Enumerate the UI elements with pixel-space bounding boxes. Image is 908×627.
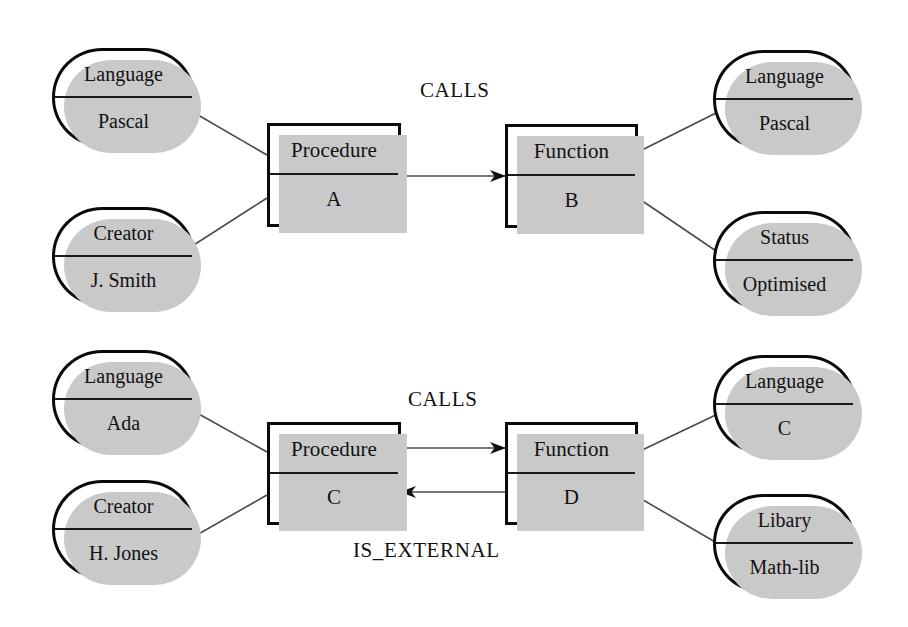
entity-function-b[interactable]: Function B [505, 124, 638, 228]
attribute-key: Language [55, 51, 192, 98]
entity-name: C [270, 472, 398, 523]
attribute-value: Ada [55, 398, 192, 447]
entity-type: Function [508, 127, 635, 176]
connector-function-b-to-lang-pascal [638, 110, 722, 152]
attribute-value: J. Smith [55, 255, 192, 304]
attribute-creator-h-jones[interactable]: Creator H. Jones [52, 480, 195, 579]
entity-procedure-c[interactable]: Procedure C [267, 422, 401, 525]
attribute-creator-j-smith[interactable]: Creator J. Smith [52, 207, 195, 306]
entity-function-d[interactable]: Function D [505, 422, 638, 525]
diagram-canvas: Language Pascal Creator J. Smith Languag… [0, 0, 908, 627]
connector-creator-jsmith-to-procedure-a [186, 198, 267, 250]
attribute-key: Creator [55, 210, 192, 257]
attribute-value: Math-lib [716, 542, 853, 591]
attribute-key: Status [716, 214, 853, 261]
attribute-language-pascal-left[interactable]: Language Pascal [52, 48, 195, 147]
entity-name: A [270, 173, 398, 224]
relationship-label-is-external: IS_EXTERNAL [353, 538, 500, 563]
attribute-key: Language [716, 358, 853, 405]
attribute-language-ada[interactable]: Language Ada [52, 350, 195, 449]
entity-type: Procedure [270, 425, 398, 474]
attribute-key: Language [716, 53, 853, 100]
attribute-status-optimised[interactable]: Status Optimised [713, 211, 856, 310]
connector-function-d-to-libary-mathlib [638, 497, 722, 546]
connector-function-d-to-lang-c [638, 412, 722, 452]
attribute-value: H. Jones [55, 528, 192, 577]
attribute-language-pascal-right[interactable]: Language Pascal [713, 50, 856, 149]
attribute-key: Language [55, 353, 192, 400]
attribute-key: Creator [55, 483, 192, 530]
entity-procedure-a[interactable]: Procedure A [267, 123, 401, 227]
attribute-libary-math-lib[interactable]: Libary Math-lib [713, 494, 856, 593]
connector-function-b-to-status-optimised [638, 198, 722, 255]
entity-name: D [508, 472, 635, 523]
entity-name: B [508, 174, 635, 225]
relationship-label-calls-top: CALLS [420, 78, 490, 103]
attribute-language-c[interactable]: Language C [713, 355, 856, 454]
entity-type: Function [508, 425, 635, 474]
attribute-value: Pascal [55, 96, 192, 145]
attribute-key: Libary [716, 497, 853, 544]
attribute-value: Optimised [716, 259, 853, 308]
entity-type: Procedure [270, 126, 398, 175]
attribute-value: Pascal [716, 98, 853, 147]
attribute-value: C [716, 403, 853, 452]
relationship-label-calls-bottom: CALLS [408, 387, 478, 412]
